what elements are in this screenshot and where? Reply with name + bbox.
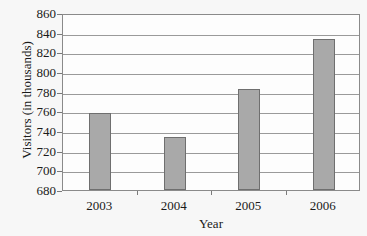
y-axis-tick-label: 800 — [10, 66, 56, 79]
x-axis-tick-label: 2004 — [144, 198, 204, 213]
y-axis-tick-label: 860 — [10, 7, 56, 20]
x-axis-tick-mark — [286, 191, 287, 195]
x-axis-tick-label: 2003 — [69, 198, 129, 213]
plot-area — [62, 14, 360, 191]
y-axis-tick-label: 760 — [10, 105, 56, 118]
bar-chart: Visitors (in thousands) 8608408208007807… — [0, 0, 367, 236]
gridline — [63, 35, 359, 36]
y-axis-tick-label: 740 — [10, 125, 56, 138]
x-axis-title: Year — [62, 216, 360, 231]
bar — [164, 137, 186, 190]
y-axis-tick-label: 680 — [10, 184, 56, 197]
x-axis-tick-mark — [211, 191, 212, 195]
x-axis-tick-label: 2006 — [293, 198, 353, 213]
y-axis-tick-label: 700 — [10, 164, 56, 177]
y-axis-tick-label: 820 — [10, 46, 56, 59]
y-axis-tick-label: 720 — [10, 145, 56, 158]
y-axis-tick-mark — [57, 191, 62, 192]
y-axis-tick-label: 840 — [10, 27, 56, 40]
bar — [89, 113, 111, 190]
x-axis-tick-mark — [137, 191, 138, 195]
bar — [238, 89, 260, 190]
bar — [313, 39, 335, 190]
x-axis-tick-label: 2005 — [218, 198, 278, 213]
y-axis-tick-label: 780 — [10, 86, 56, 99]
